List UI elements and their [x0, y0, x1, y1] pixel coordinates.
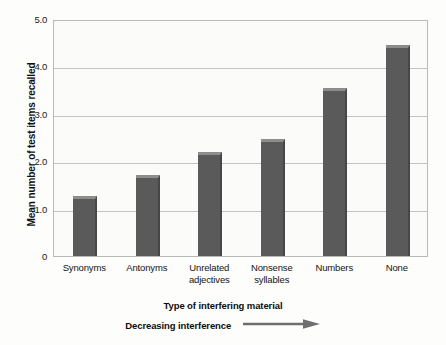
x-axis-title: Type of interfering material [0, 300, 446, 311]
plot-area [53, 20, 428, 257]
bar-slot [304, 21, 367, 256]
annotation-label: Decreasing interference [125, 320, 231, 331]
bar [386, 45, 410, 256]
y-tick-label: 0 [8, 251, 47, 262]
bar [73, 196, 97, 256]
x-tick-label-line: None [357, 262, 437, 274]
y-tick-label: 1.0 [8, 204, 47, 215]
bar [198, 152, 222, 256]
bar [261, 139, 285, 256]
bar [323, 88, 347, 256]
right-arrow-icon [243, 318, 321, 332]
y-tick-label: 5.0 [8, 14, 47, 25]
bar [136, 175, 160, 256]
bar-slot [367, 21, 430, 256]
x-tick-label: None [357, 262, 437, 274]
x-tick-label-line: syllables [232, 274, 312, 286]
y-tick-label: 3.0 [8, 109, 47, 120]
bar-slot [54, 21, 117, 256]
bar-slot [242, 21, 305, 256]
y-tick-label: 2.0 [8, 156, 47, 167]
y-tick-label: 4.0 [8, 61, 47, 72]
bar-slot [117, 21, 180, 256]
bar-chart-figure: Mean number of test items recalled 01.02… [0, 0, 446, 345]
bar-slot [179, 21, 242, 256]
decreasing-interference-annotation: Decreasing interference [0, 318, 446, 334]
